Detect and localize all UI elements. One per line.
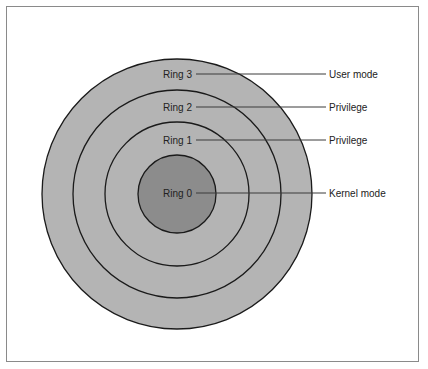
ring-2-label: Ring 2 [163,102,192,113]
ring-0-description: Kernel mode [329,188,386,199]
protection-rings-diagram: Ring 3 Ring 2 Ring 1 Ring 0 User mode Pr… [0,0,428,369]
ring-1-label: Ring 1 [163,135,192,146]
ring-1-description: Privilege [329,135,368,146]
ring-0-label: Ring 0 [163,188,192,199]
ring-3-description: User mode [329,69,378,80]
ring-3-label: Ring 3 [163,69,192,80]
ring-2-description: Privilege [329,102,368,113]
